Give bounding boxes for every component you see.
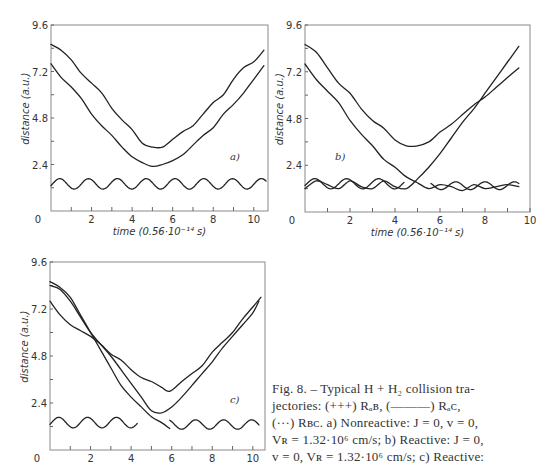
plot-frame xyxy=(50,262,265,450)
y-tick-label: 4.8 xyxy=(31,351,47,362)
x-tick-label: 6 xyxy=(169,214,175,225)
x-tick-label: 0 xyxy=(35,214,41,225)
x-tick-label: 8 xyxy=(209,453,215,464)
trajectory-vibration xyxy=(51,179,266,190)
y-axis-label: distance (a.u.) xyxy=(19,311,30,383)
trajectory-upper xyxy=(50,297,261,391)
chart-panel-b: 02468102.44.87.29.6distance (a.u.)time (… xyxy=(274,20,536,238)
x-tick-label: 2 xyxy=(347,215,353,226)
x-tick-label: 0 xyxy=(34,453,40,464)
x-axis-label: time (0.56·10⁻¹⁴ s) xyxy=(113,226,206,237)
y-tick-label: 4.8 xyxy=(32,113,48,124)
y-tick-label: 7.2 xyxy=(286,67,302,78)
chart-panel-a: 02468102.44.87.29.6distance (a.u.)time (… xyxy=(20,20,268,237)
y-tick-label: 2.4 xyxy=(31,398,47,409)
trajectory-lower xyxy=(305,64,519,191)
y-axis-label: distance (a.u.) xyxy=(274,73,285,145)
y-tick-label: 9.6 xyxy=(286,20,302,31)
x-tick-label: 4 xyxy=(392,215,398,226)
trajectory-vibration xyxy=(50,417,137,428)
x-tick-label: 8 xyxy=(482,215,488,226)
trajectory-reactive xyxy=(305,46,519,189)
y-tick-label: 7.2 xyxy=(32,67,48,78)
x-axis-label: time (0.56·10⁻¹⁴ s) xyxy=(371,227,464,238)
x-tick-label: 2 xyxy=(88,214,94,225)
caption-line: v = 0, Vʀ = 1.32·10⁶ cm/s; c) Reactive: xyxy=(272,448,552,465)
x-tick-label: 0 xyxy=(289,215,295,226)
x-tick-label: 8 xyxy=(210,214,216,225)
y-tick-label: 2.4 xyxy=(286,160,302,171)
panel-label: b) xyxy=(335,151,345,162)
trajectory-lower xyxy=(50,286,259,414)
panel-label: c) xyxy=(230,394,240,405)
plot-frame xyxy=(51,25,268,211)
figure-caption: Fig. 8. – Typical H + H₂ collision tra- … xyxy=(272,380,552,465)
caption-line: Vʀ = 1.32·10⁶ cm/s; b) Reactive: J = 0, xyxy=(272,431,552,448)
caption-line: jectories: (+++) Rₐʙ, (———) Rₐᴄ, xyxy=(272,397,552,414)
trajectory-vibration2 xyxy=(431,182,519,190)
x-tick-label: 6 xyxy=(437,215,443,226)
panel-label: a) xyxy=(230,151,240,162)
caption-line: (···) Rʙᴄ. a) Nonreactive: J = 0, v = 0, xyxy=(272,414,552,431)
x-tick-label: 10 xyxy=(524,215,537,226)
x-tick-label: 4 xyxy=(128,453,134,464)
x-tick-label: 10 xyxy=(247,214,260,225)
y-tick-label: 9.6 xyxy=(32,20,48,31)
caption-line: Fig. 8. – Typical H + H₂ collision tra- xyxy=(272,380,552,397)
trajectory-upper xyxy=(305,45,519,147)
x-tick-label: 10 xyxy=(246,453,259,464)
y-tick-label: 4.8 xyxy=(286,114,302,125)
y-axis-label: distance (a.u.) xyxy=(20,73,31,145)
y-tick-label: 9.6 xyxy=(31,257,47,268)
x-tick-label: 4 xyxy=(129,214,135,225)
chart-panel-c: 02468102.44.87.29.6distance (a.u.)c) xyxy=(19,257,265,464)
y-tick-label: 7.2 xyxy=(31,304,47,315)
y-tick-label: 2.4 xyxy=(32,160,48,171)
x-tick-label: 6 xyxy=(169,453,175,464)
x-tick-label: 2 xyxy=(87,453,93,464)
trajectory-upper xyxy=(51,44,264,147)
trajectory-vibration2 xyxy=(170,420,259,429)
